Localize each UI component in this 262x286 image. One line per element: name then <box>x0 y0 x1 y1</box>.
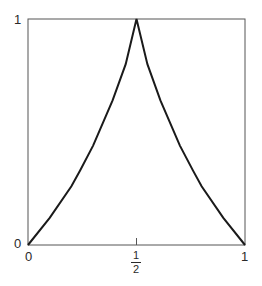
plot-frame <box>28 19 245 245</box>
x-tick-label-half: 1 2 <box>130 250 142 275</box>
fraction-numerator: 1 <box>133 249 139 261</box>
y-tick-label-bottom: 0 <box>14 237 21 250</box>
x-tick-label-left: 0 <box>25 250 32 263</box>
data-curve <box>28 19 245 245</box>
y-tick-label-top: 1 <box>14 13 21 26</box>
x-tick-label-right: 1 <box>241 250 248 263</box>
fraction-denominator: 2 <box>133 263 139 275</box>
chart-plot <box>0 0 262 286</box>
